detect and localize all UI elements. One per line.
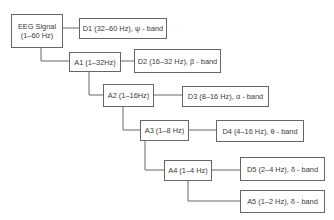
node-a2: A2 (1–16Hz) bbox=[103, 84, 154, 107]
node-eeg-title: EEG Signal bbox=[18, 22, 56, 31]
node-a1-label: A1 (1–32Hz) bbox=[74, 58, 116, 67]
node-d3-label: D3 (8–16 Hz), α - band bbox=[188, 92, 263, 101]
node-d5-label: D5 (2–4 Hz), δ - band bbox=[247, 165, 318, 174]
node-a3-label: A3 (1–8 Hz) bbox=[145, 126, 184, 135]
edge-a2-a3 bbox=[123, 106, 140, 130]
node-d4: D4 (4–16 Hz), θ - band bbox=[216, 120, 304, 142]
node-a5-label: A5 (1–2 Hz), δ - band bbox=[247, 197, 318, 206]
node-d3: D3 (8–16 Hz), α - band bbox=[182, 86, 269, 107]
edge-a1-a2 bbox=[89, 71, 103, 95]
node-a4: A4 (1–4 Hz) bbox=[164, 160, 212, 181]
node-d4-label: D4 (4–16 Hz), θ - band bbox=[222, 127, 297, 136]
node-d1: D1 (32–60 Hz), ψ - band bbox=[79, 18, 167, 39]
edge-a3-a4 bbox=[145, 140, 164, 170]
node-a3: A3 (1–8 Hz) bbox=[140, 120, 189, 141]
node-d2-label: D2 (16–32 Hz), β - band bbox=[138, 57, 217, 66]
node-a4-label: A4 (1–4 Hz) bbox=[168, 166, 207, 175]
node-a5: A5 (1–2 Hz), δ - band bbox=[240, 190, 325, 213]
node-a2-label: A2 (1–16Hz) bbox=[108, 91, 150, 100]
edge-eeg-a1 bbox=[41, 47, 69, 61]
node-d5: D5 (2–4 Hz), δ - band bbox=[240, 157, 325, 181]
node-a1: A1 (1–32Hz) bbox=[69, 52, 121, 72]
node-d1-label: D1 (32–60 Hz), ψ - band bbox=[83, 24, 163, 33]
node-eeg-range: (1–60 Hz) bbox=[21, 31, 53, 40]
edge-a4-a5 bbox=[188, 180, 240, 201]
node-eeg-signal: EEG Signal (1–60 Hz) bbox=[11, 14, 63, 48]
node-d2: D2 (16–32 Hz), β - band bbox=[134, 49, 221, 73]
